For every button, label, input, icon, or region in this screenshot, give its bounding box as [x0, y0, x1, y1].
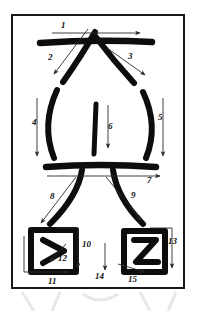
stroke-label-8: 8 [50, 192, 55, 201]
stroke-label-4: 4 [32, 118, 37, 127]
stroke-label-10: 10 [82, 240, 91, 249]
stroke-label-14: 14 [95, 272, 104, 281]
stroke-label-3: 3 [128, 52, 133, 61]
stroke-label-6: 6 [108, 122, 113, 131]
stroke-label-15: 15 [128, 275, 137, 284]
stroke-label-12: 12 [58, 254, 67, 263]
stroke-label-2: 2 [48, 53, 53, 62]
stroke-order-figure: 1 2 3 4 5 6 7 8 9 10 11 12 13 14 15 [0, 0, 199, 311]
figure-frame [11, 14, 185, 289]
stroke-label-1: 1 [61, 21, 66, 30]
stroke-label-5: 5 [158, 113, 163, 122]
stroke-label-11: 11 [48, 277, 57, 286]
stroke-label-9: 9 [131, 191, 136, 200]
stroke-label-7: 7 [147, 176, 152, 185]
stroke-label-13: 13 [168, 237, 177, 246]
